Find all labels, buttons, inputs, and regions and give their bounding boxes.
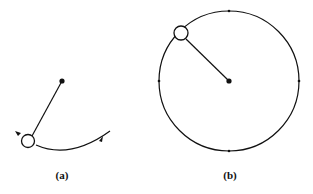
tick-top	[228, 10, 231, 13]
pendulum-rod-a	[32, 81, 62, 136]
pendulum-rod-b	[186, 39, 229, 81]
tick-left	[158, 80, 161, 83]
pendulum-bob-b	[174, 26, 188, 40]
panel-b-figure	[158, 10, 301, 153]
panel-b-label: (b)	[223, 169, 236, 181]
arc-start-arrow-icon	[15, 131, 21, 136]
pendulum-diagram	[0, 0, 313, 194]
tick-bottom	[228, 150, 231, 153]
panel-a-label: (a)	[56, 169, 69, 181]
pivot-point-b	[226, 78, 231, 83]
swing-arc-a	[36, 131, 110, 150]
panel-a-figure	[15, 78, 110, 150]
pendulum-bob-a	[22, 135, 35, 148]
tick-right	[298, 80, 301, 83]
pivot-point-a	[59, 78, 64, 83]
